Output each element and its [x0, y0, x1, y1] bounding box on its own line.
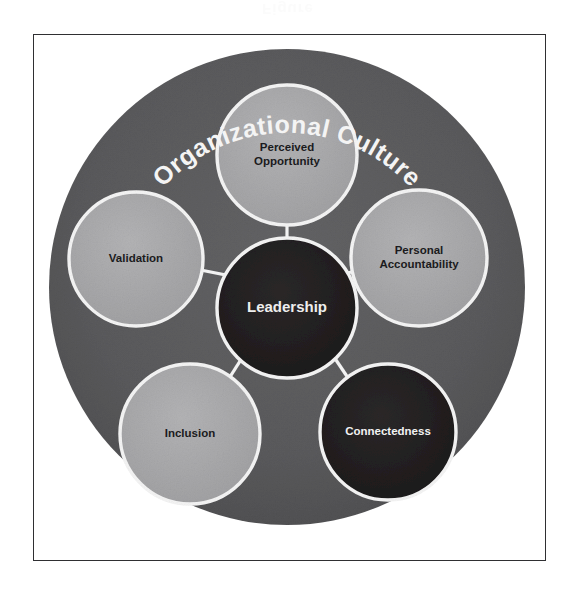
node-label-line: Accountability	[351, 258, 487, 272]
node-label-validation: Validation	[68, 252, 204, 266]
node-label-line: Inclusion	[122, 427, 258, 441]
organizational-culture-diagram: Organizational Culture	[0, 0, 576, 591]
node-label-inclusion: Inclusion	[122, 427, 258, 441]
node-label-line: Perceived	[217, 141, 357, 155]
node-label-perceived-opportunity: Perceived Opportunity	[217, 141, 357, 168]
hub-label-leadership: Leadership	[217, 300, 357, 314]
node-label-personal-accountability: Personal Accountability	[351, 244, 487, 271]
hub-label-line: Leadership	[217, 300, 357, 314]
node-label-line: Validation	[68, 252, 204, 266]
screenshot-canvas: Figure	[0, 0, 576, 591]
node-label-connectedness: Connectedness	[320, 425, 456, 439]
node-label-line: Personal	[351, 244, 487, 258]
node-label-line: Opportunity	[217, 155, 357, 169]
node-label-line: Connectedness	[320, 425, 456, 439]
